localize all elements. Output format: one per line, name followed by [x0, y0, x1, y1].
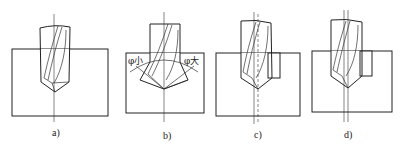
angle-label-small: φ小 — [128, 56, 143, 66]
hole-c — [241, 53, 280, 89]
caption-d: d) — [344, 129, 352, 141]
drill-diagram: a) φ小 φ大 b) c) — [0, 0, 403, 155]
caption-c: c) — [254, 129, 262, 141]
panel-d: d) — [312, 10, 392, 141]
panel-b: φ小 φ大 b) — [126, 12, 204, 142]
angle-label-large: φ大 — [184, 55, 199, 66]
hole-d — [331, 51, 372, 88]
panel-c: c) — [216, 12, 300, 141]
panel-a: a) — [12, 14, 108, 139]
caption-b: b) — [163, 130, 171, 142]
caption-a: a) — [52, 127, 60, 139]
